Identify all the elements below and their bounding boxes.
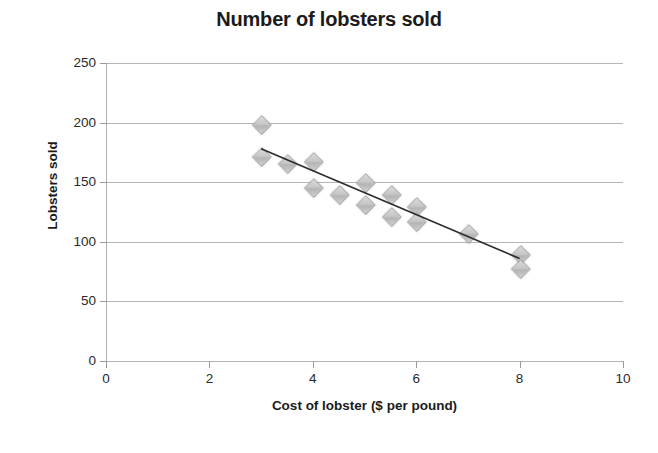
- gridline: [106, 63, 623, 64]
- diamond-marker-icon: [278, 155, 297, 174]
- y-tick-label: 100: [50, 234, 96, 249]
- data-point: [330, 186, 347, 203]
- y-tick-mark: [100, 242, 107, 243]
- diamond-marker-icon: [330, 186, 349, 205]
- data-point: [278, 155, 295, 172]
- y-tick-label: 150: [50, 174, 96, 189]
- y-tick-label: 50: [50, 293, 96, 308]
- gridline: [106, 301, 623, 302]
- x-tick-mark: [520, 361, 521, 368]
- gridline: [106, 242, 623, 243]
- diamond-marker-icon: [356, 174, 375, 193]
- data-point: [408, 212, 425, 229]
- data-point: [356, 195, 373, 212]
- data-point: [253, 115, 270, 132]
- x-tick-mark: [623, 361, 624, 368]
- y-tick-mark: [100, 182, 107, 183]
- data-point: [459, 224, 476, 241]
- gridline: [106, 361, 623, 362]
- x-tick-label: 0: [86, 371, 126, 386]
- x-tick-mark: [209, 361, 210, 368]
- data-point: [304, 152, 321, 169]
- x-tick-label: 8: [500, 371, 540, 386]
- y-tick-label: 200: [50, 115, 96, 130]
- x-tick-label: 4: [293, 371, 333, 386]
- diamond-marker-icon: [253, 147, 272, 166]
- x-tick-label: 6: [396, 371, 436, 386]
- data-point: [382, 186, 399, 203]
- x-tick-label: 10: [603, 371, 643, 386]
- y-tick-mark: [100, 301, 107, 302]
- gridline: [106, 123, 623, 124]
- y-tick-mark: [100, 123, 107, 124]
- x-tick-mark: [106, 361, 107, 368]
- diamond-marker-icon: [304, 152, 323, 171]
- diamond-marker-icon: [253, 115, 272, 134]
- diamond-marker-icon: [304, 178, 323, 197]
- x-tick-label: 2: [189, 371, 229, 386]
- x-tick-mark: [313, 361, 314, 368]
- data-point: [356, 174, 373, 191]
- data-point: [304, 178, 321, 195]
- y-tick-label: 0: [50, 353, 96, 368]
- diamond-marker-icon: [356, 195, 375, 214]
- diamond-marker-icon: [382, 186, 401, 205]
- x-axis-title: Cost of lobster ($ per pound): [106, 398, 623, 413]
- chart-title: Number of lobsters sold: [0, 8, 658, 31]
- chart-container: Number of lobsters sold Lobsters sold Co…: [0, 0, 658, 453]
- y-tick-mark: [100, 63, 107, 64]
- plot-area: [106, 63, 623, 361]
- data-point: [382, 207, 399, 224]
- diamond-marker-icon: [511, 259, 530, 278]
- diamond-marker-icon: [382, 207, 401, 226]
- diamond-marker-icon: [459, 224, 478, 243]
- data-point: [253, 147, 270, 164]
- x-tick-mark: [416, 361, 417, 368]
- diamond-marker-icon: [408, 212, 427, 231]
- data-point: [511, 260, 528, 277]
- y-tick-label: 250: [50, 55, 96, 70]
